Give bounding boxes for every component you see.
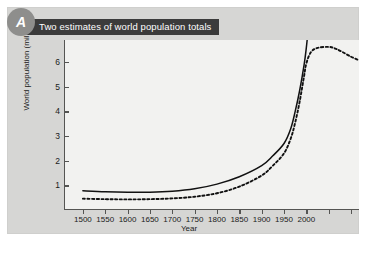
y-tick-label: 3 <box>42 131 60 141</box>
x-tick-label: 2000 <box>297 215 315 224</box>
series-line-solid <box>83 40 307 192</box>
x-tick-mark <box>150 210 151 214</box>
x-tick-mark <box>239 210 240 214</box>
x-tick-mark <box>172 210 173 214</box>
x-tick-label: 1900 <box>253 215 271 224</box>
series-line-dotted <box>83 47 358 200</box>
x-tick-mark <box>306 210 307 214</box>
y-tick-label: 1 <box>42 180 60 190</box>
x-tick-mark <box>217 210 218 214</box>
y-tick-label: 4 <box>42 106 60 116</box>
x-tick-label: 1800 <box>208 215 226 224</box>
x-tick-label: 1600 <box>119 215 137 224</box>
x-tick-label: 1550 <box>96 215 114 224</box>
x-tick-label: 1650 <box>141 215 159 224</box>
x-tick-mark <box>83 210 84 214</box>
x-tick-label: 1750 <box>186 215 204 224</box>
x-tick-mark <box>329 210 330 214</box>
y-tick-label: 5 <box>42 82 60 92</box>
x-tick-label: 1850 <box>230 215 248 224</box>
y-tick-label: 6 <box>42 57 60 67</box>
chart-curves <box>65 40 360 210</box>
x-axis-title: Year <box>64 224 314 233</box>
x-tick-label: 1500 <box>74 215 92 224</box>
y-tick-label: 2 <box>42 156 60 166</box>
chart-title-banner: Two estimates of world population totals <box>28 19 219 35</box>
x-tick-mark <box>262 210 263 214</box>
panel-badge: A <box>7 8 35 36</box>
x-tick-mark <box>284 210 285 214</box>
x-tick-label: 1950 <box>275 215 293 224</box>
x-tick-label: 1700 <box>163 215 181 224</box>
x-tick-mark <box>351 210 352 214</box>
x-tick-mark <box>195 210 196 214</box>
plot-area: 123456 150015501600165017001750180018501… <box>64 40 359 210</box>
figure-root: 123456 150015501600165017001750180018501… <box>0 0 369 259</box>
figure-panel: 123456 150015501600165017001750180018501… <box>7 7 359 234</box>
x-tick-mark <box>105 210 106 214</box>
x-tick-mark <box>128 210 129 214</box>
